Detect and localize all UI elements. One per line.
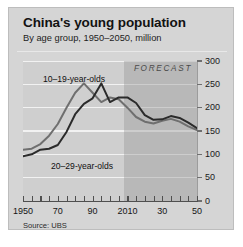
- y-tick-mark: [197, 130, 202, 131]
- series-label-20-29: 20–29-year-olds: [51, 161, 113, 171]
- plot-area: FORECAST 10–19-year-olds 20–29-year-olds: [23, 61, 197, 201]
- chart-subtitle: By age group, 1950–2050, million: [23, 33, 162, 43]
- x-tick-mark: [84, 196, 85, 201]
- x-tick-mark: [40, 196, 41, 201]
- x-tick-mark: [136, 196, 137, 201]
- x-tick-mark: [49, 196, 50, 201]
- chart-header: China's young population By age group, 1…: [9, 8, 233, 52]
- x-tick-mark: [67, 196, 68, 201]
- x-tick-mark: [145, 196, 146, 201]
- x-tick-mark: [58, 196, 59, 201]
- x-tick-label: 50: [192, 206, 202, 216]
- x-tick-mark: [180, 196, 181, 201]
- y-tick-mark: [197, 84, 202, 85]
- source-note: Source: UBS: [23, 221, 67, 230]
- y-tick-mark: [197, 107, 202, 108]
- x-tick-mark: [101, 196, 102, 201]
- x-tick-mark: [119, 196, 120, 201]
- x-tick-label: 90: [88, 206, 98, 216]
- y-tick-label: 300: [205, 56, 220, 66]
- x-tick-mark: [23, 196, 24, 201]
- x-tick-label: 30: [157, 206, 167, 216]
- x-tick-mark: [171, 196, 172, 201]
- x-tick-mark: [32, 196, 33, 201]
- page-title: China's young population: [23, 15, 186, 30]
- y-tick-label: 100: [205, 149, 220, 159]
- y-tick-mark: [197, 60, 202, 61]
- x-tick-mark: [188, 196, 189, 201]
- x-tick-mark: [110, 196, 111, 201]
- x-axis-line: [23, 201, 198, 202]
- x-tick-mark: [154, 196, 155, 201]
- x-tick-label: 2010: [117, 206, 137, 216]
- y-tick-label: 200: [205, 102, 220, 112]
- y-tick-mark: [197, 154, 202, 155]
- x-tick-mark: [127, 196, 128, 201]
- x-tick-label: 70: [53, 206, 63, 216]
- y-tick-label: 50: [205, 172, 215, 182]
- header-divider: [17, 51, 227, 52]
- x-tick-label: 1950: [13, 206, 33, 216]
- y-tick-label: 150: [205, 126, 220, 136]
- x-tick-mark: [197, 196, 198, 201]
- y-tick-mark: [197, 177, 202, 178]
- x-tick-mark: [93, 196, 94, 201]
- plot-wrapper: FORECAST 10–19-year-olds 20–29-year-olds…: [9, 55, 235, 231]
- chart-card: China's young population By age group, 1…: [8, 7, 234, 230]
- series-label-10-19: 10–19-year-olds: [43, 74, 105, 84]
- y-tick-label: 250: [205, 79, 220, 89]
- x-tick-mark: [162, 196, 163, 201]
- x-tick-mark: [75, 196, 76, 201]
- y-tick-label: 0: [205, 196, 210, 206]
